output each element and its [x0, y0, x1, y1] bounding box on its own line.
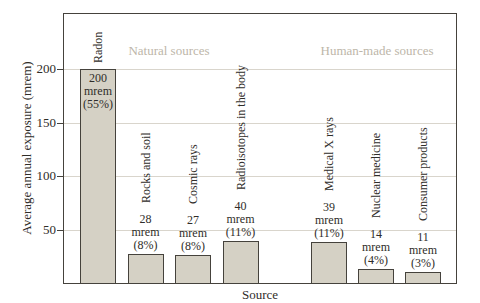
bar-category-label-nuclear-medicine: Nuclear medicine: [369, 133, 383, 218]
bar-category-label-rocks-and-soil: Rocks and soil: [139, 132, 153, 203]
bar-radioisotopes-in-the-body: [223, 241, 259, 284]
y-tick-label-200: 200: [18, 62, 56, 76]
gridline-200: [64, 69, 456, 70]
group-label-natural-sources: Natural sources: [128, 44, 209, 58]
bar-cosmic-rays: [175, 255, 211, 284]
y-tick-label-100: 100: [18, 169, 56, 183]
y-axis-title: Average annual exposure (mrem): [20, 61, 34, 234]
bar-value-label-consumer-products: 11mrem(3%): [391, 231, 455, 270]
bar-category-label-radon: Radon: [91, 32, 105, 63]
bar-category-label-radioisotopes-in-the-body: Radioisotopes in the body: [234, 65, 248, 190]
gridline-150: [64, 123, 456, 124]
y-tick-100: [57, 176, 63, 177]
y-tick-150: [57, 123, 63, 124]
y-tick-200: [57, 69, 63, 70]
x-axis-title: Source: [242, 288, 278, 302]
value-label-line: (3%): [391, 257, 455, 270]
bar-medical-x-rays: [311, 242, 347, 284]
radiation-exposure-bar-chart: Average annual exposure (mrem) Natural s…: [0, 0, 480, 303]
value-label-line: (11%): [209, 226, 273, 239]
bar-value-label-radon: 200mrem(55%): [66, 72, 130, 111]
gridline-100: [64, 176, 456, 177]
bar-rocks-and-soil: [128, 254, 164, 284]
bar-consumer-products: [405, 272, 441, 284]
y-tick-label-50: 50: [18, 223, 56, 237]
value-label-line: (8%): [161, 240, 225, 253]
y-tick-50: [57, 230, 63, 231]
bar-category-label-cosmic-rays: Cosmic rays: [186, 144, 200, 204]
y-tick-label-150: 150: [18, 116, 56, 130]
bar-value-label-radioisotopes-in-the-body: 40mrem(11%): [209, 200, 273, 239]
group-label-human-made-sources: Human-made sources: [321, 44, 434, 58]
bar-category-label-consumer-products: Consumer products: [416, 127, 430, 221]
bar-category-label-medical-x-rays: Medical X rays: [322, 117, 336, 191]
value-label-line: (55%): [66, 98, 130, 111]
bar-nuclear-medicine: [358, 269, 394, 284]
